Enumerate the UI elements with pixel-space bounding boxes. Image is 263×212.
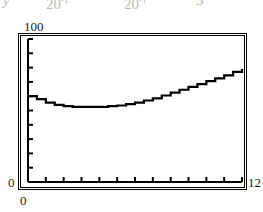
y-axis-min-label: 0 xyxy=(8,176,15,189)
y-axis-max-label: 100 xyxy=(24,20,44,33)
plot-container: 100 0 0 12 xyxy=(0,0,263,212)
data-series-curve xyxy=(28,69,242,107)
x-axis-min-label: 0 xyxy=(20,194,27,207)
plot-canvas xyxy=(20,35,245,188)
x-axis-max-label: 12 xyxy=(248,176,263,189)
axis-group xyxy=(28,39,242,182)
